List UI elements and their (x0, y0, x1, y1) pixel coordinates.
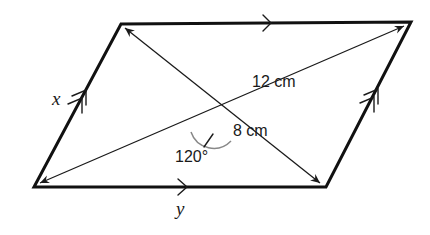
angle-arc (191, 132, 231, 148)
side-label-y: y (174, 198, 185, 219)
long-diagonal-label: 12 cm (252, 73, 296, 90)
short-diagonal-label: 8 cm (233, 122, 268, 139)
short-diagonal (125, 28, 320, 183)
angle-pointer (204, 134, 213, 147)
parallelogram-diagram: x y 12 cm 8 cm 120° (0, 0, 430, 235)
side-label-x: x (51, 88, 61, 109)
angle-label: 120° (175, 148, 208, 165)
